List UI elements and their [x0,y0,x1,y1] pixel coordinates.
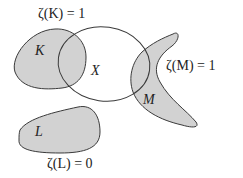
label-l: L [34,124,43,139]
region-m [131,33,197,127]
annotation-zeta-m: ζ(M) = 1 [166,58,215,74]
region-k [14,29,86,89]
region-l [19,107,100,153]
label-m: M [142,92,156,107]
annotation-zeta-k: ζ(K) = 1 [38,6,85,22]
label-x: X [90,63,100,78]
diagram-canvas: K X M L ζ(K) = 1 ζ(M) = 1 ζ(L) = 0 [0,0,243,178]
label-k: K [34,43,45,58]
annotation-zeta-l: ζ(L) = 0 [47,156,93,172]
